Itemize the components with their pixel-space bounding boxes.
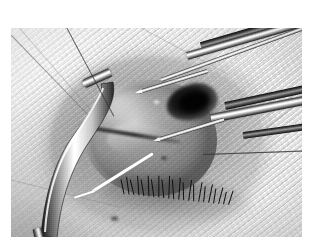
eyelash	[172, 179, 175, 199]
eyelash	[148, 176, 150, 197]
eyelash	[223, 192, 227, 205]
eyelash	[183, 182, 185, 200]
eyelash	[137, 175, 140, 195]
eyelash	[213, 188, 217, 203]
figure-container	[0, 0, 315, 246]
eyelash	[130, 179, 135, 195]
eyelash	[193, 184, 194, 201]
tissue-mark-1	[154, 100, 159, 104]
lid-retractor	[19, 80, 119, 237]
eyelash	[228, 190, 234, 205]
eyelash	[151, 179, 155, 197]
eyelash	[140, 179, 144, 196]
eyelash	[120, 179, 124, 194]
tissue-mark-3	[161, 156, 167, 160]
eyelash	[158, 176, 159, 198]
eyelash	[178, 178, 181, 200]
eyelash	[188, 180, 192, 201]
eyelash	[203, 186, 206, 202]
eyelash	[168, 176, 170, 199]
surgical-photograph	[11, 28, 302, 237]
eyelash	[161, 179, 164, 198]
eyelash	[198, 182, 203, 202]
